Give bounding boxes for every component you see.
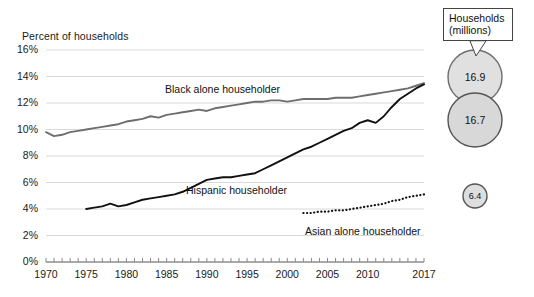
x-tick-label: 1985	[147, 268, 187, 280]
households-callout-box: Households (millions)	[443, 8, 513, 41]
y-tick-label: 2%	[6, 229, 38, 241]
y-tick-label: 0%	[6, 255, 38, 267]
x-tick-label: 2010	[348, 268, 388, 280]
x-tick-label: 1970	[26, 268, 66, 280]
x-tick-label: 1980	[106, 268, 146, 280]
series-label: Asian alone householder	[305, 225, 421, 237]
y-tick-label: 10%	[6, 123, 38, 135]
x-tick-label: 1990	[187, 268, 227, 280]
series-label: Hispanic householder	[186, 184, 287, 196]
series-line-2	[303, 194, 424, 213]
callout-line-1: Households	[449, 12, 507, 24]
bubble-value-label: 16.9	[465, 71, 485, 83]
x-tick-label: 1995	[227, 268, 267, 280]
callout-line-2: (millions)	[449, 24, 507, 36]
y-tick-label: 12%	[6, 96, 38, 108]
y-tick-label: 16%	[6, 43, 38, 55]
x-tick-label: 2005	[307, 268, 347, 280]
x-tick-label: 2000	[267, 268, 307, 280]
bubble-value-label: 6.4	[469, 191, 482, 201]
y-tick-label: 8%	[6, 149, 38, 161]
chart-figure: Percent of households 16%14%12%10%8%6%4%…	[0, 0, 534, 297]
bubble-value-label: 16.7	[465, 114, 485, 126]
y-tick-label: 14%	[6, 70, 38, 82]
x-tick-label: 1975	[66, 268, 106, 280]
series-label: Black alone householder	[165, 83, 280, 95]
y-tick-label: 6%	[6, 176, 38, 188]
x-tick-label: 2017	[404, 268, 444, 280]
plot-area	[0, 0, 534, 297]
y-tick-label: 4%	[6, 202, 38, 214]
